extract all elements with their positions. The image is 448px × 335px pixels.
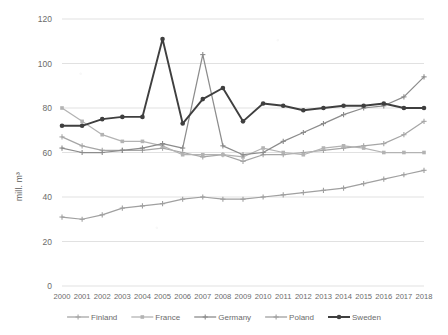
data-point-marker bbox=[201, 153, 205, 157]
data-point-marker bbox=[220, 197, 225, 202]
x-axis-tick-label: 2017 bbox=[395, 292, 412, 301]
legend-item-germany[interactable]: Germany bbox=[194, 313, 251, 322]
data-point-marker bbox=[274, 314, 279, 319]
series-sweden bbox=[60, 37, 427, 128]
legend-label: France bbox=[155, 313, 180, 322]
x-axis-tick-label: 2010 bbox=[255, 292, 272, 301]
legend-item-france[interactable]: France bbox=[131, 313, 180, 322]
data-point-marker bbox=[261, 146, 265, 150]
y-axis-tick-label: 120 bbox=[38, 14, 52, 24]
data-point-marker bbox=[141, 315, 145, 319]
series-line bbox=[62, 170, 424, 219]
legend-item-poland[interactable]: Poland bbox=[265, 313, 314, 322]
x-axis-tick-label: 2014 bbox=[335, 292, 352, 301]
x-axis-tick-label: 2011 bbox=[275, 292, 291, 301]
data-point-marker bbox=[261, 194, 266, 199]
legend-label: Finland bbox=[91, 313, 117, 322]
data-point-marker bbox=[180, 121, 185, 126]
data-point-marker bbox=[337, 315, 342, 320]
data-point-marker bbox=[341, 112, 346, 117]
data-point-marker bbox=[281, 151, 285, 155]
line-chart: 020406080100120 200020012002200320042005… bbox=[0, 0, 448, 335]
data-point-marker bbox=[80, 150, 85, 155]
x-axis-tick-label: 2018 bbox=[416, 292, 433, 301]
series-poland bbox=[59, 168, 426, 222]
x-axis-tick-label: 2009 bbox=[235, 292, 252, 301]
data-point-marker bbox=[120, 115, 125, 120]
x-axis-tick-label: 2005 bbox=[154, 292, 171, 301]
data-point-marker bbox=[422, 151, 426, 155]
data-point-marker bbox=[120, 206, 125, 211]
data-point-marker bbox=[361, 181, 366, 186]
x-axis-tick-label: 2008 bbox=[214, 292, 231, 301]
data-point-marker bbox=[301, 190, 306, 195]
x-axis-tick-label: 2015 bbox=[355, 292, 372, 301]
legend-label: Sweden bbox=[352, 313, 381, 322]
data-point-marker bbox=[121, 140, 125, 144]
x-axis-tick-label: 2016 bbox=[375, 292, 392, 301]
data-point-marker bbox=[321, 106, 326, 111]
data-point-marker bbox=[362, 146, 366, 150]
y-axis-tick-label: 0 bbox=[47, 281, 52, 291]
y-axis-ticks: 020406080100120 bbox=[38, 14, 52, 291]
data-point-marker bbox=[240, 197, 245, 202]
data-point-marker bbox=[220, 143, 225, 148]
data-point-marker bbox=[160, 37, 165, 42]
data-point-marker bbox=[80, 124, 85, 129]
data-point-marker bbox=[342, 144, 346, 148]
series-line bbox=[62, 108, 424, 157]
data-point-marker bbox=[80, 217, 85, 222]
data-point-marker bbox=[100, 212, 105, 217]
legend-label: Germany bbox=[218, 313, 251, 322]
series-layer bbox=[59, 37, 426, 222]
data-point-marker bbox=[59, 145, 64, 150]
data-point-marker bbox=[402, 106, 407, 111]
data-point-marker bbox=[322, 146, 326, 150]
x-axis-tick-label: 2004 bbox=[134, 292, 151, 301]
data-point-marker bbox=[341, 103, 346, 108]
data-point-marker bbox=[402, 151, 406, 155]
y-axis-tick-label: 100 bbox=[38, 59, 52, 69]
x-axis-tick-label: 2003 bbox=[114, 292, 131, 301]
x-axis-tick-label: 2013 bbox=[315, 292, 332, 301]
data-point-marker bbox=[321, 188, 326, 193]
data-point-marker bbox=[421, 168, 426, 173]
data-point-marker bbox=[301, 130, 306, 135]
data-point-marker bbox=[140, 115, 145, 120]
data-point-marker bbox=[59, 134, 64, 139]
data-point-marker bbox=[100, 133, 104, 137]
series-line bbox=[62, 39, 424, 126]
data-point-marker bbox=[381, 141, 386, 146]
x-axis-ticks: 2000200120022003200420052006200720082009… bbox=[54, 292, 433, 301]
data-point-marker bbox=[281, 139, 286, 144]
data-point-marker bbox=[401, 172, 406, 177]
data-point-marker bbox=[141, 140, 145, 144]
data-point-marker bbox=[381, 101, 386, 106]
x-axis-tick-label: 2006 bbox=[174, 292, 191, 301]
x-axis-tick-label: 2001 bbox=[74, 292, 91, 301]
data-point-marker bbox=[203, 314, 208, 319]
x-axis-tick-label: 2002 bbox=[94, 292, 111, 301]
data-point-marker bbox=[221, 86, 226, 91]
data-point-marker bbox=[381, 177, 386, 182]
y-axis-tick-label: 80 bbox=[43, 103, 53, 113]
data-point-marker bbox=[180, 145, 185, 150]
data-point-marker bbox=[361, 103, 366, 108]
data-point-marker bbox=[240, 159, 245, 164]
data-point-marker bbox=[120, 148, 125, 153]
x-axis-tick-label: 2000 bbox=[54, 292, 71, 301]
data-point-marker bbox=[422, 106, 427, 111]
data-point-marker bbox=[341, 186, 346, 191]
legend-item-finland[interactable]: Finland bbox=[67, 313, 117, 322]
data-point-marker bbox=[200, 194, 205, 199]
legend-item-sweden[interactable]: Sweden bbox=[328, 313, 381, 322]
data-point-marker bbox=[181, 153, 185, 157]
y-axis-tick-label: 60 bbox=[43, 148, 53, 158]
data-point-marker bbox=[221, 153, 225, 157]
data-point-marker bbox=[321, 121, 326, 126]
chart-container: mill. m³ 020406080100120 200020012002200… bbox=[0, 0, 448, 335]
y-axis-tick-label: 40 bbox=[43, 192, 53, 202]
x-axis-tick-label: 2007 bbox=[194, 292, 211, 301]
data-point-marker bbox=[261, 101, 266, 106]
y-axis-tick-label: 20 bbox=[43, 237, 53, 247]
